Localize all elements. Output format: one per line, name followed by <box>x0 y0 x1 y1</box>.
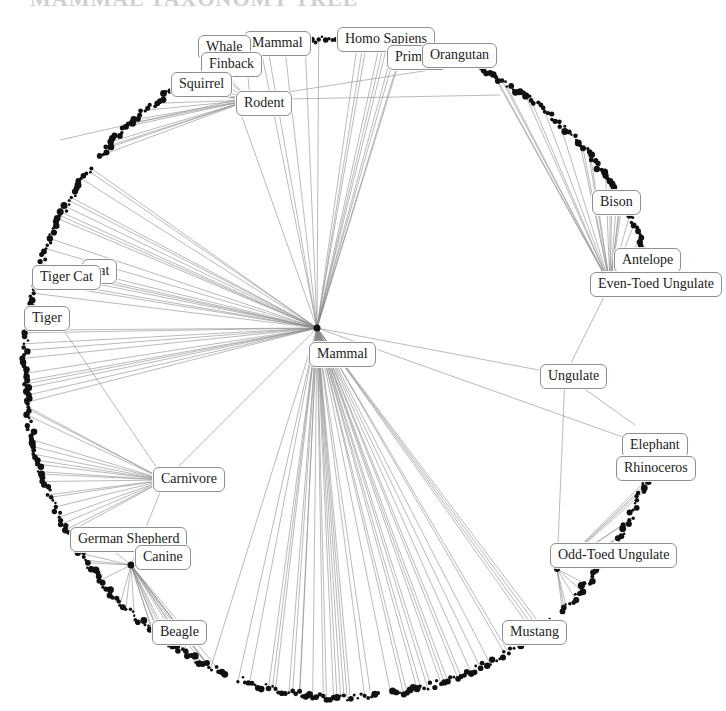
label-even-toed-ungulate[interactable]: Even-Toed Ungulate <box>590 272 722 297</box>
leaf-node[interactable] <box>478 665 484 671</box>
leaf-node[interactable] <box>619 525 626 532</box>
leaf-node[interactable] <box>574 593 577 596</box>
leaf-node[interactable] <box>65 209 69 213</box>
leaf-node[interactable] <box>45 247 48 250</box>
leaf-node[interactable] <box>58 511 62 515</box>
leaf-node[interactable] <box>508 83 514 89</box>
leaf-node[interactable] <box>578 582 585 589</box>
leaf-node[interactable] <box>25 423 30 428</box>
leaf-node[interactable] <box>266 686 272 692</box>
leaf-node[interactable] <box>89 167 93 171</box>
leaf-node[interactable] <box>427 688 430 691</box>
leaf-node[interactable] <box>210 668 213 671</box>
leaf-node[interactable] <box>596 161 601 166</box>
leaf-node[interactable] <box>401 691 407 697</box>
leaf-node[interactable] <box>498 658 501 661</box>
leaf-node[interactable] <box>215 665 219 669</box>
label-mustang[interactable]: Mustang <box>502 620 567 645</box>
leaf-node[interactable] <box>452 676 455 679</box>
leaf-node[interactable] <box>580 145 586 151</box>
leaf-node[interactable] <box>52 509 57 514</box>
leaf-node[interactable] <box>500 655 506 661</box>
leaf-node[interactable] <box>571 600 576 605</box>
leaf-node[interactable] <box>346 699 349 702</box>
leaf-node[interactable] <box>184 653 190 659</box>
leaf-node[interactable] <box>489 657 495 663</box>
label-orangutan[interactable]: Orangutan <box>422 43 497 68</box>
leaf-node[interactable] <box>557 119 562 124</box>
mammal-hub[interactable] <box>314 325 321 332</box>
leaf-node[interactable] <box>160 97 166 103</box>
leaf-node[interactable] <box>321 35 324 38</box>
leaf-node[interactable] <box>31 452 35 456</box>
leaf-node[interactable] <box>194 661 197 664</box>
leaf-node[interactable] <box>635 494 639 498</box>
leaf-node[interactable] <box>553 119 558 124</box>
leaf-node[interactable] <box>370 695 373 698</box>
leaf-node[interactable] <box>435 679 438 682</box>
leaf-node[interactable] <box>46 244 49 247</box>
leaf-node[interactable] <box>363 694 367 698</box>
leaf-node[interactable] <box>27 339 30 342</box>
leaf-node[interactable] <box>504 80 507 83</box>
leaf-node[interactable] <box>51 499 54 502</box>
leaf-node[interactable] <box>207 666 210 669</box>
leaf-node[interactable] <box>588 152 595 159</box>
leaf-node[interactable] <box>49 495 54 500</box>
leaf-node[interactable] <box>138 108 143 113</box>
leaf-node[interactable] <box>549 112 554 117</box>
leaf-node[interactable] <box>642 489 647 494</box>
leaf-node[interactable] <box>70 196 73 199</box>
leaf-node[interactable] <box>422 686 426 690</box>
leaf-node[interactable] <box>24 398 29 403</box>
label-squirrel[interactable]: Squirrel <box>171 72 232 97</box>
leaf-node[interactable] <box>32 291 36 295</box>
leaf-node[interactable] <box>118 604 121 607</box>
leaf-node[interactable] <box>97 153 103 159</box>
leaf-node[interactable] <box>137 113 142 118</box>
leaf-node[interactable] <box>359 692 362 695</box>
leaf-node[interactable] <box>634 502 636 504</box>
leaf-node[interactable] <box>317 37 321 41</box>
leaf-node[interactable] <box>58 516 61 519</box>
leaf-node[interactable] <box>54 502 57 505</box>
leaf-node[interactable] <box>107 593 113 599</box>
leaf-node[interactable] <box>38 259 43 264</box>
leaf-node[interactable] <box>68 199 71 202</box>
leaf-node[interactable] <box>627 509 633 515</box>
leaf-node[interactable] <box>101 586 104 589</box>
leaf-node[interactable] <box>570 134 572 136</box>
leaf-node[interactable] <box>480 661 485 666</box>
leaf-node[interactable] <box>31 428 38 435</box>
leaf-node[interactable] <box>389 687 396 694</box>
leaf-node[interactable] <box>37 470 40 473</box>
leaf-node[interactable] <box>353 693 356 696</box>
leaf-node[interactable] <box>541 106 546 111</box>
canine-hub[interactable] <box>128 562 135 569</box>
leaf-node[interactable] <box>133 615 135 617</box>
label-tiger[interactable]: Tiger <box>24 306 70 331</box>
leaf-node[interactable] <box>290 689 295 694</box>
leaf-node[interactable] <box>242 676 245 679</box>
leaf-node[interactable] <box>558 125 562 129</box>
leaf-node[interactable] <box>366 696 370 700</box>
leaf-node[interactable] <box>27 405 31 409</box>
leaf-node[interactable] <box>594 166 600 172</box>
leaf-node[interactable] <box>216 670 220 674</box>
leaf-node[interactable] <box>508 646 512 650</box>
leaf-node[interactable] <box>300 694 304 698</box>
leaf-node[interactable] <box>632 517 635 520</box>
leaf-node[interactable] <box>271 685 274 688</box>
leaf-node[interactable] <box>439 682 443 686</box>
leaf-node[interactable] <box>502 650 506 654</box>
leaf-node[interactable] <box>133 618 137 622</box>
leaf-node[interactable] <box>29 294 33 298</box>
leaf-node[interactable] <box>54 505 58 509</box>
label-tiger-cat[interactable]: Tiger Cat <box>32 265 101 290</box>
leaf-node[interactable] <box>522 92 529 99</box>
label-ungulate[interactable]: Ungulate <box>540 364 607 389</box>
leaf-node[interactable] <box>140 617 147 624</box>
leaf-node[interactable] <box>573 133 578 138</box>
leaf-node[interactable] <box>29 297 36 304</box>
leaf-node[interactable] <box>132 610 135 613</box>
